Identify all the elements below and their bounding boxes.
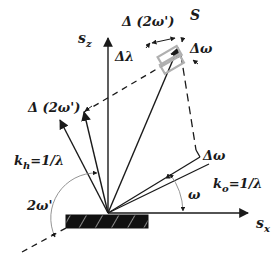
label-delta-2omega-prime-left: Δ (2ω') [27,100,80,115]
label-delta-lambda: Δλ [114,49,134,64]
diffraction-diagram: Δ (2ω') S sz Δλ Δω Δ (2ω') kh=1/λ 2ω' Δω… [0,0,280,266]
dashed-vertical-line [181,55,196,150]
label-sx: sx [256,215,271,234]
dashed-extension-line [22,228,66,252]
crystal-sample [66,215,148,228]
label-S: S [190,7,200,23]
label-sz: sz [78,30,92,49]
label-delta-2omega-prime-top: Δ (2ω') [121,14,174,29]
delta-2omega-arrow-top [152,38,175,43]
label-delta-omega-top: Δω [189,41,213,56]
label-two-omega-prime: 2ω' [26,198,52,213]
delta-omega-tick-top [182,37,183,42]
label-omega: ω [188,187,201,202]
ko-line-1 [108,157,200,213]
label-kh: kh=1/λ [14,153,64,171]
kh-vector-1 [60,120,108,213]
dashed-short-line [196,150,200,157]
delta-lambda-tick [146,43,150,48]
label-delta-omega-right: Δω [202,148,226,163]
kh-vector-2 [84,112,108,213]
label-ko: ko=1/λ [213,176,263,194]
delta-omega-tick-bottom [193,60,198,64]
delta-2omega-arrow-left [85,106,92,111]
dashed-delta-line [84,60,172,112]
resolution-box [156,46,186,74]
